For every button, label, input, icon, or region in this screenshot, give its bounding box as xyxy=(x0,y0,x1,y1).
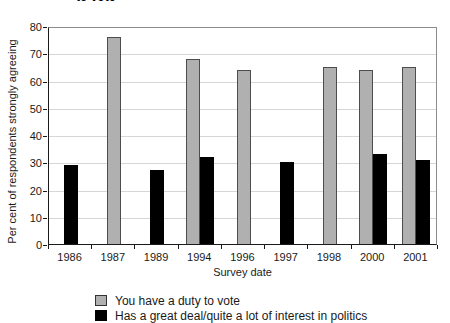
legend-label-duty-to-vote: You have a duty to vote xyxy=(115,294,240,308)
y-tick-mark-30 xyxy=(43,163,47,164)
y-tick-mark-60 xyxy=(43,82,47,83)
duty-to-vote-swatch-icon xyxy=(95,295,107,306)
x-tick-mark-0 xyxy=(48,245,49,249)
y-tick-label-0: 0 xyxy=(22,239,42,251)
legend: You have a duty to vote Has a great deal… xyxy=(95,293,367,323)
x-tick-mark-6 xyxy=(307,245,308,249)
x-tick-label-1987: 1987 xyxy=(91,251,134,264)
y-tick-label-50: 50 xyxy=(22,103,42,115)
x-tick-label-1989: 1989 xyxy=(134,251,177,264)
interest-in-politics-swatch-icon xyxy=(95,310,107,321)
bar-2001-interest-in-politics xyxy=(416,160,430,244)
bar-2000-duty-to-vote xyxy=(359,70,373,244)
cropped-figure-caption: to vote xyxy=(76,0,115,4)
y-tick-mark-10 xyxy=(43,218,47,219)
bar-2000-interest-in-politics xyxy=(373,154,387,244)
legend-item-interest-in-politics: Has a great deal/quite a lot of interest… xyxy=(95,308,367,323)
plot-area xyxy=(48,27,437,245)
x-tick-label-1996: 1996 xyxy=(221,251,264,264)
y-tick-mark-50 xyxy=(43,109,47,110)
x-tick-mark-9 xyxy=(437,245,438,249)
y-tick-label-80: 80 xyxy=(22,21,42,33)
x-tick-mark-8 xyxy=(394,245,395,249)
y-tick-mark-40 xyxy=(43,136,47,137)
x-tick-mark-2 xyxy=(134,245,135,249)
x-tick-mark-3 xyxy=(178,245,179,249)
bar-1986-interest-in-politics xyxy=(64,165,78,244)
y-tick-mark-70 xyxy=(43,54,47,55)
legend-item-duty-to-vote: You have a duty to vote xyxy=(95,293,367,308)
y-tick-mark-80 xyxy=(43,27,47,28)
x-tick-label-1998: 1998 xyxy=(307,251,350,264)
bar-chart-figure: to vote Per cent of respondents strongly… xyxy=(0,0,450,323)
bar-1998-duty-to-vote xyxy=(323,67,337,244)
y-axis-title: Per cent of respondents strongly agreein… xyxy=(6,136,17,147)
y-tick-mark-20 xyxy=(43,191,47,192)
x-tick-label-2001: 2001 xyxy=(394,251,437,264)
x-tick-mark-7 xyxy=(351,245,352,249)
x-tick-mark-5 xyxy=(264,245,265,249)
y-tick-label-40: 40 xyxy=(22,130,42,142)
y-tick-label-60: 60 xyxy=(22,76,42,88)
bar-1987-duty-to-vote xyxy=(107,37,121,244)
bar-1994-duty-to-vote xyxy=(186,59,200,244)
x-tick-label-1997: 1997 xyxy=(264,251,307,264)
x-tick-mark-4 xyxy=(221,245,222,249)
x-tick-mark-1 xyxy=(91,245,92,249)
bar-1997-interest-in-politics xyxy=(280,162,294,244)
y-tick-label-30: 30 xyxy=(22,157,42,169)
x-tick-label-2000: 2000 xyxy=(351,251,394,264)
y-tick-label-20: 20 xyxy=(22,185,42,197)
y-tick-label-10: 10 xyxy=(22,212,42,224)
x-axis-title: Survey date xyxy=(48,266,437,278)
bar-1994-interest-in-politics xyxy=(200,157,214,244)
legend-label-interest-in-politics: Has a great deal/quite a lot of interest… xyxy=(115,309,367,323)
y-tick-mark-0 xyxy=(43,245,47,246)
bar-1989-interest-in-politics xyxy=(150,170,164,244)
bar-1996-duty-to-vote xyxy=(237,70,251,244)
bar-2001-duty-to-vote xyxy=(402,67,416,244)
x-tick-label-1986: 1986 xyxy=(48,251,91,264)
y-tick-label-70: 70 xyxy=(22,48,42,60)
x-tick-label-1994: 1994 xyxy=(178,251,221,264)
